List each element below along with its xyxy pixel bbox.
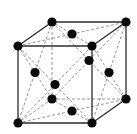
face-center-atom-face-back (84, 56, 93, 65)
corner-atom-corner-100 (87, 118, 96, 127)
cube-edge-corner-111-corner-101 (92, 22, 126, 46)
face-center-atom-face-front (50, 80, 59, 89)
face-center-atom-face-top (67, 29, 76, 38)
corner-atom-corner-101 (87, 41, 96, 50)
corner-atom-corner-111 (121, 17, 130, 26)
corner-atom-corner-000 (13, 118, 22, 127)
corner-atom-corner-001 (13, 41, 22, 50)
face-center-atom-face-left (30, 68, 39, 77)
cube-edge-corner-110-corner-100 (92, 99, 126, 123)
lattice-svg (0, 0, 137, 134)
face-center-atom-face-right (104, 68, 113, 77)
face-center-atom-face-bottom (67, 106, 76, 115)
atoms-group (13, 17, 130, 127)
corner-atom-corner-010 (47, 94, 56, 103)
fcc-unit-cell-diagram: Face-centered cubic unit cell (0, 0, 137, 134)
corner-atom-corner-110 (121, 94, 130, 103)
corner-atom-corner-011 (47, 17, 56, 26)
